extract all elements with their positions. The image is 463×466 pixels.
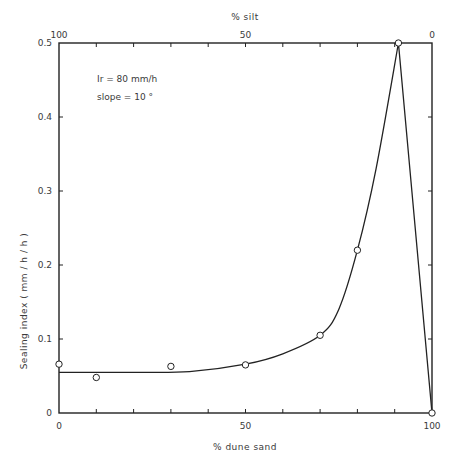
data-point-marker — [395, 40, 401, 46]
x2-axis-title: % silt — [231, 12, 259, 22]
y-tick-label: 0.3 — [38, 186, 52, 196]
y-tick-label: 0.5 — [38, 38, 52, 48]
annotation-slope: slope = 10 ° — [97, 92, 153, 102]
y-axis-title: Sealing index ( mm / h / h ) — [19, 233, 29, 370]
data-point-marker — [56, 361, 62, 367]
y-tick-label: 0 — [46, 408, 52, 418]
y-tick-label: 0.2 — [38, 260, 52, 270]
tick-labels: 05010010050000.10.20.30.40.5 — [38, 30, 441, 431]
data-point-marker — [354, 247, 360, 253]
data-point-marker — [93, 374, 99, 380]
y-tick-label: 0.1 — [38, 334, 52, 344]
x-tick-label: 100 — [423, 421, 440, 431]
data-point-marker — [168, 363, 174, 369]
data-point-marker — [429, 410, 435, 416]
y-tick-label: 0.4 — [38, 112, 53, 122]
data-point-marker — [242, 362, 248, 368]
annotation-rainfall-intensity: Ir = 80 mm/h — [97, 74, 157, 84]
x2-tick-label: 0 — [429, 30, 435, 40]
x-axis-title: % dune sand — [213, 442, 277, 452]
x2-tick-label: 100 — [50, 30, 67, 40]
x-tick-label: 0 — [56, 421, 62, 431]
x-tick-label: 50 — [240, 421, 252, 431]
sealing-index-chart: 05010010050000.10.20.30.40.5 % silt % du… — [0, 0, 463, 466]
data-point-marker — [317, 332, 323, 338]
x2-tick-label: 50 — [240, 30, 252, 40]
